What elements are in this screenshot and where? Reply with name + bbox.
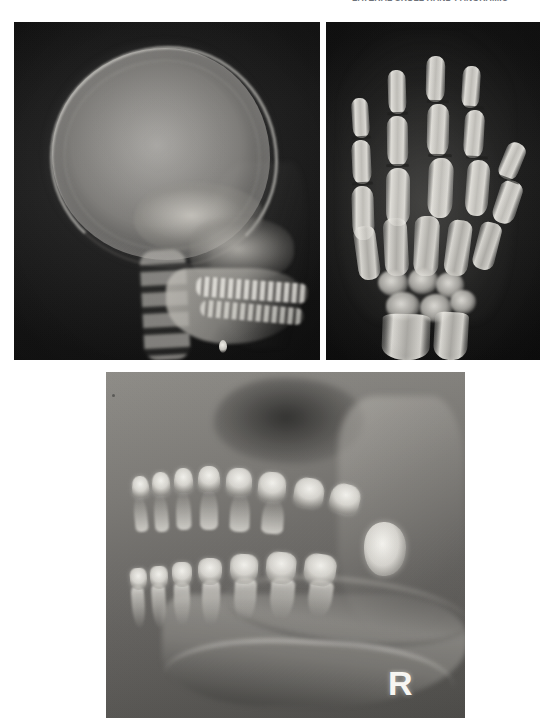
tooth-crown-upper-7 [292,476,326,510]
tooth-root-upper-4 [200,488,218,530]
tooth-crown-lower-3 [172,562,192,587]
tooth-crown-upper-5 [226,468,253,497]
tooth-root-upper-1 [132,493,149,532]
tooth-crown-upper-6 [257,471,287,503]
tooth-crown-lower-2 [149,566,168,590]
impacted-third-molar [364,522,406,576]
skull-radiopaque-marker [219,340,227,353]
tooth-root-lower-1 [131,586,147,629]
tooth-crown-upper-3 [174,468,194,494]
carpal-bone-2 [408,268,438,294]
panoramic-film-speck [112,394,115,397]
tooth-root-upper-3 [175,490,191,530]
hand-film-surface [326,22,540,360]
tooth-crown-upper-1 [131,475,150,499]
panel-dental-panoramic-radiograph[interactable]: R [106,372,465,718]
phalanx-thumb-1 [490,178,525,227]
carpal-bone-6 [450,290,476,314]
skull-film-surface [14,22,320,360]
figure-caption-strip: LATERAL SKULL HAND PANORAMIC [0,0,555,7]
tooth-root-upper-5 [229,492,250,533]
panel-hand-wrist-radiograph[interactable] [326,22,540,360]
forearm-bone-ulna [433,311,469,360]
panoramic-film-surface: R [106,372,465,718]
tooth-crown-upper-2 [151,471,171,496]
figure-caption-text: LATERAL SKULL HAND PANORAMIC [352,0,508,3]
forearm-bone-radius [381,313,431,360]
tooth-crown-lower-4 [198,558,222,585]
metacarpal-3 [413,216,440,277]
tooth-crown-lower-1 [129,567,147,590]
tooth-root-upper-2 [153,492,170,533]
tooth-root-upper-6 [261,497,285,534]
tooth-crown-upper-4 [198,466,220,492]
metacarpal-2 [382,217,409,276]
laterality-marker-right: R [388,666,413,700]
panel-lateral-skull-radiograph[interactable] [14,22,320,360]
